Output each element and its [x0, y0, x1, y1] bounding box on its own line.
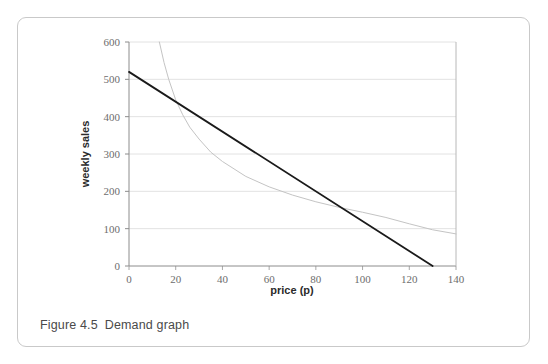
- y-axis-tick-label: 0: [115, 260, 121, 272]
- y-axis-tick-label: 200: [104, 185, 121, 197]
- revenue-curve-path: [159, 42, 456, 234]
- x-axis-tick-label: 120: [401, 273, 418, 285]
- gridlines-group: [129, 42, 456, 229]
- figure-card: 0100200300400500600 020406080100120140 p…: [17, 17, 530, 347]
- demand-line-path: [129, 72, 433, 266]
- y-axis-tick-label: 300: [104, 148, 121, 160]
- y-axis-ticks-group: 0100200300400500600: [104, 36, 130, 272]
- x-axis-tick-label: 100: [354, 273, 371, 285]
- figure-caption-text: Demand graph: [105, 318, 190, 332]
- y-axis-tick-label: 500: [104, 73, 121, 85]
- demand-graph-svg: 0100200300400500600 020406080100120140 p…: [18, 18, 531, 298]
- chart-plot-container: 0100200300400500600 020406080100120140 p…: [18, 18, 531, 298]
- x-axis-tick-label: 0: [126, 273, 132, 285]
- x-axis-title: price (p): [270, 284, 314, 296]
- x-axis-tick-label: 140: [448, 273, 465, 285]
- figure-caption-number: Figure 4.5: [40, 318, 98, 332]
- y-axis-tick-label: 100: [104, 223, 121, 235]
- x-axis-tick-label: 40: [217, 273, 229, 285]
- x-axis-ticks-group: 020406080100120140: [126, 266, 465, 285]
- y-axis-tick-label: 400: [104, 111, 121, 123]
- figure-caption: Figure 4.5Demand graph: [40, 318, 189, 332]
- y-axis-title: weekly sales: [79, 121, 91, 189]
- x-axis-tick-label: 20: [170, 273, 182, 285]
- y-axis-tick-label: 600: [104, 36, 121, 48]
